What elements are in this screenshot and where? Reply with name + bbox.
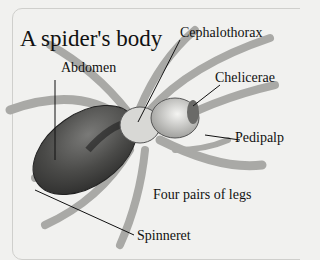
diagram-title: A spider's body bbox=[20, 26, 162, 52]
chelicerae-shape bbox=[187, 100, 199, 124]
label-pedipalp: Pedipalp bbox=[235, 130, 284, 146]
label-abdomen: Abdomen bbox=[61, 60, 116, 76]
label-spinneret: Spinneret bbox=[137, 228, 191, 244]
label-legs: Four pairs of legs bbox=[153, 187, 251, 203]
label-cephalothorax: Cephalothorax bbox=[180, 25, 262, 41]
label-chelicerae: Chelicerae bbox=[215, 70, 275, 86]
